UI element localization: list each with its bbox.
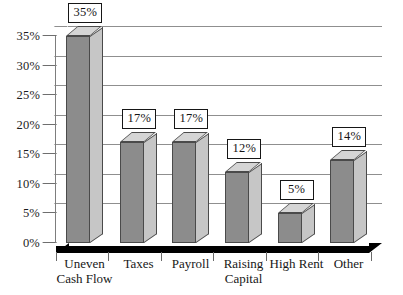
category-label-line-1: Other xyxy=(334,256,364,271)
bar[interactable] xyxy=(120,142,144,243)
x-axis-separator-tick xyxy=(56,252,57,261)
category-label-line-2: Capital xyxy=(199,271,289,286)
bar[interactable] xyxy=(278,213,302,243)
x-axis-separator-tick xyxy=(371,252,372,261)
bar-front-face xyxy=(278,213,302,243)
bar-data-label: 17% xyxy=(122,109,156,129)
bar-data-label: 35% xyxy=(68,3,102,23)
x-axis-separator-tick xyxy=(161,252,162,261)
bar-side-face xyxy=(144,133,157,243)
bar-data-label: 17% xyxy=(174,109,208,129)
bar[interactable] xyxy=(225,172,249,243)
bar-side-face xyxy=(90,27,103,243)
bar[interactable] xyxy=(330,160,354,243)
bar-side-face xyxy=(249,163,262,243)
x-axis-separator-tick xyxy=(213,252,214,261)
bar-front-face xyxy=(172,142,196,243)
bar-data-label: 14% xyxy=(332,127,366,147)
bar-side-face xyxy=(196,133,209,243)
x-axis-separator-tick xyxy=(318,252,319,261)
bar-chart: 0%5%10%15%20%25%30%35% 35%17%17%12%5%14%… xyxy=(0,0,403,295)
x-axis-separator-tick xyxy=(108,252,109,261)
bar-front-face xyxy=(66,36,90,243)
bar[interactable] xyxy=(66,36,90,243)
bar-front-face xyxy=(120,142,144,243)
bar-data-label: 12% xyxy=(227,139,261,159)
category-label-line-2: Cash Flow xyxy=(40,271,130,286)
bar-front-face xyxy=(225,172,249,243)
x-axis-category-label: Other xyxy=(304,256,394,271)
bar-data-label: 5% xyxy=(280,180,314,200)
x-axis-separator-tick xyxy=(266,252,267,261)
chart-floor xyxy=(56,243,382,253)
bar-front-face xyxy=(330,160,354,243)
bar[interactable] xyxy=(172,142,196,243)
bar-side-face xyxy=(354,151,367,243)
